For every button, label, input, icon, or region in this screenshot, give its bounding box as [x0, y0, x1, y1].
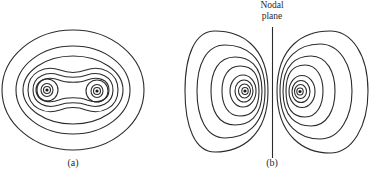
nodal-plane-label-line1: Nodal — [247, 0, 297, 11]
panel-a-label: (a) — [58, 157, 88, 168]
nucleus-a-right — [95, 89, 98, 92]
contour-diagram — [0, 0, 374, 178]
panel-a-contours — [2, 30, 144, 150]
nucleus-b-left — [243, 89, 246, 92]
panel-b-left-lobe — [185, 31, 268, 152]
panel-b-right-lobe — [277, 31, 368, 153]
nucleus-b-right — [298, 90, 301, 93]
panel-b-label: (b) — [257, 157, 287, 168]
nucleus-a-left — [45, 88, 48, 91]
nodal-plane-annotation: Nodal plane — [247, 0, 297, 22]
nodal-plane-label-line2: plane — [247, 11, 297, 22]
